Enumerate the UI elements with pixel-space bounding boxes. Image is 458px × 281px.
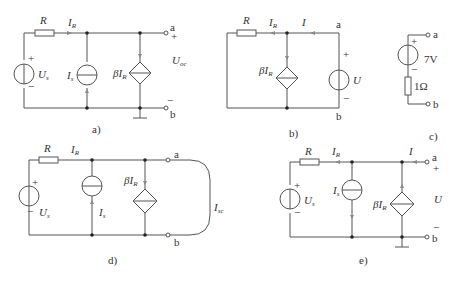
svg-text:−: − bbox=[294, 206, 300, 218]
svg-text:a: a bbox=[336, 18, 341, 30]
caption-a: a) bbox=[92, 123, 101, 136]
svg-text:b: b bbox=[433, 98, 439, 110]
svg-text:1Ω: 1Ω bbox=[414, 80, 428, 92]
svg-text:IR: IR bbox=[70, 143, 80, 157]
svg-text:+: + bbox=[294, 179, 300, 191]
resistor-R bbox=[237, 30, 256, 36]
caption-e: e) bbox=[359, 254, 368, 267]
svg-text:Us: Us bbox=[304, 194, 315, 208]
svg-text:b: b bbox=[432, 232, 438, 244]
resistor-1ohm bbox=[405, 77, 411, 95]
label-Is: Is bbox=[66, 69, 74, 83]
figure-e: R IR I + − Us Is βIR a + U − b e) bbox=[280, 145, 443, 267]
svg-text:b: b bbox=[336, 110, 342, 122]
svg-text:a: a bbox=[174, 148, 179, 160]
svg-text:βIR: βIR bbox=[258, 64, 273, 78]
svg-text:IR: IR bbox=[331, 145, 341, 159]
svg-text:βIR: βIR bbox=[372, 198, 387, 212]
svg-text:−: − bbox=[27, 205, 33, 217]
figure-b: R IR I βIR a + U − b b) bbox=[227, 14, 362, 140]
svg-text:−: − bbox=[167, 94, 173, 106]
figure-a: R IR + − Us Is βIR a + Uoc − b a) bbox=[14, 14, 187, 136]
svg-text:U: U bbox=[434, 193, 443, 205]
caption-c: c) bbox=[429, 130, 438, 143]
svg-text:I: I bbox=[301, 16, 307, 28]
label-Us: Us bbox=[38, 68, 49, 82]
caption-b: b) bbox=[289, 127, 299, 140]
svg-text:b: b bbox=[174, 236, 180, 248]
svg-text:+: + bbox=[343, 48, 349, 60]
caption-d: d) bbox=[108, 254, 118, 267]
svg-text:−: − bbox=[343, 92, 349, 104]
svg-text:R: R bbox=[242, 14, 250, 26]
figure-d: R IR + − Us Is βIR a b Isc d) bbox=[19, 142, 224, 267]
svg-text:R: R bbox=[43, 142, 51, 154]
label-Uoc: Uoc bbox=[172, 54, 187, 68]
svg-text:Us: Us bbox=[39, 206, 50, 220]
svg-text:U: U bbox=[353, 74, 362, 86]
svg-text:+: + bbox=[32, 176, 38, 188]
svg-text:IR: IR bbox=[268, 16, 278, 30]
resistor-R bbox=[35, 30, 54, 36]
svg-text:+: + bbox=[433, 162, 439, 174]
svg-text:R: R bbox=[304, 145, 312, 157]
figure-c: a b + − 7V 1Ω c) bbox=[398, 28, 439, 143]
label-R: R bbox=[39, 14, 47, 26]
svg-text:+: + bbox=[411, 35, 417, 47]
svg-text:−: − bbox=[28, 80, 34, 92]
svg-text:+: + bbox=[28, 52, 34, 64]
svg-text:Isc: Isc bbox=[213, 201, 224, 215]
svg-text:Is: Is bbox=[332, 184, 340, 198]
svg-text:+: + bbox=[171, 30, 177, 42]
svg-text:7V: 7V bbox=[424, 53, 438, 65]
terminal-a bbox=[164, 31, 168, 35]
svg-text:I: I bbox=[408, 145, 414, 157]
resistor-R bbox=[39, 157, 58, 163]
svg-text:b: b bbox=[170, 108, 176, 120]
terminal-b bbox=[164, 106, 168, 110]
svg-text:−: − bbox=[411, 63, 417, 75]
svg-text:βIR: βIR bbox=[123, 174, 138, 188]
label-IR: IR bbox=[67, 16, 77, 30]
resistor-R bbox=[300, 159, 319, 165]
circuit-diagrams: R IR + − Us Is βIR a + Uoc − b a) R IR I… bbox=[0, 0, 458, 281]
svg-text:a: a bbox=[433, 28, 438, 40]
svg-text:Is: Is bbox=[98, 206, 106, 220]
label-dep: βIR bbox=[112, 67, 127, 81]
